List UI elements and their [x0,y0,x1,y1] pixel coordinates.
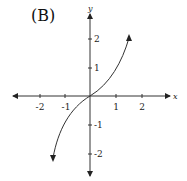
x-tick-label: -1 [62,102,71,112]
y-tick-label: 1 [94,63,100,73]
y-tick-label: -2 [94,149,103,159]
graph: -2 -1 1 2 2 1 -1 -2 x y [0,0,187,181]
y-tick-label: 2 [94,34,100,44]
x-tick-label: 1 [113,102,119,112]
x-tick-label: 2 [139,102,145,112]
y-axis-label: y [87,4,93,13]
x-tick-label: -2 [36,102,45,112]
y-tick-label: -1 [94,120,103,130]
function-curve [53,38,129,158]
x-axis-label: x [173,92,178,101]
